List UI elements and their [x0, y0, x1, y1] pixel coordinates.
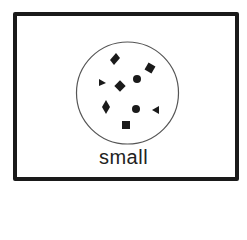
diamond-shape: [110, 53, 120, 65]
square-shape: [122, 121, 130, 129]
rotated-square-shape: [145, 63, 156, 74]
dot-shape: [133, 75, 141, 83]
diamond-shape: [102, 100, 110, 114]
triangle-shape: [152, 106, 159, 114]
caption-label: small: [0, 146, 247, 169]
dot-shape: [132, 105, 140, 113]
triangle-shape: [99, 79, 106, 86]
rotated-square-shape: [114, 80, 125, 91]
